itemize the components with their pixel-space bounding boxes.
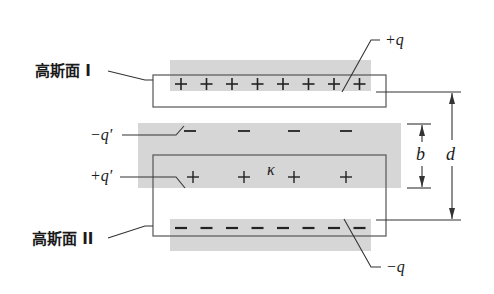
- d-label: d: [446, 144, 456, 164]
- minus-q-prime-label: −q′: [90, 126, 113, 144]
- gaussian-surface-1-label: 高斯面 I: [35, 62, 91, 80]
- capacitor-diagram: 高斯面 I 高斯面 II +q −q −q′ +q′ κ b d: [0, 0, 494, 294]
- bottom-plate: [170, 219, 371, 251]
- gaussian-surface-2-label: 高斯面 II: [32, 230, 93, 248]
- b-label: b: [416, 144, 425, 164]
- minus-q-label: −q: [386, 258, 405, 276]
- kappa-label: κ: [267, 161, 275, 178]
- plus-q-label: +q: [385, 31, 404, 49]
- plus-q-prime-label: +q′: [90, 167, 113, 185]
